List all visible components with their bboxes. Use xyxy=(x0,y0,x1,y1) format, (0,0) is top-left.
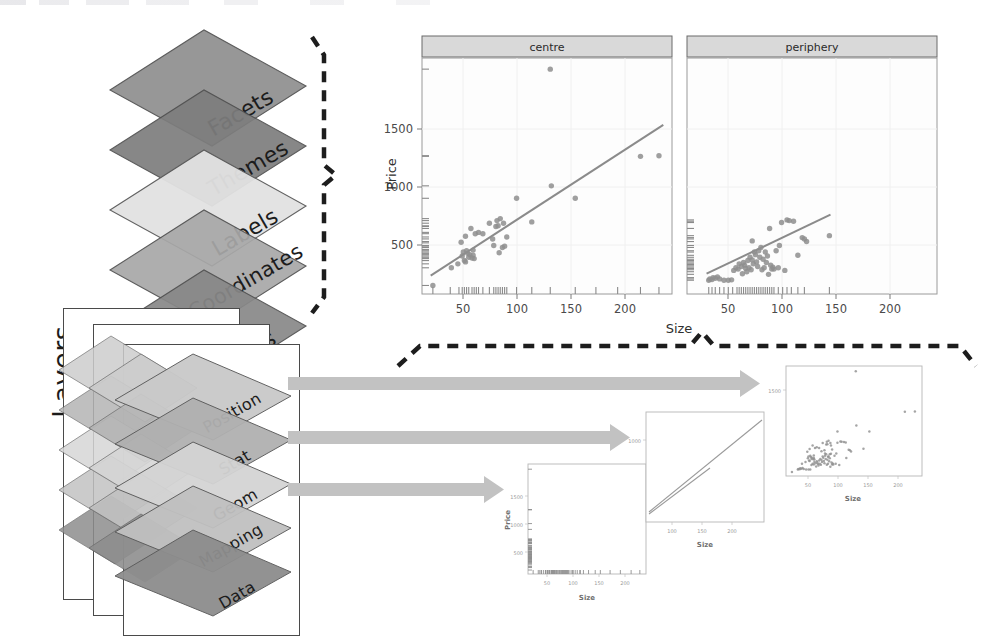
mini-geom-xtick-200: 200 xyxy=(893,482,903,488)
mini-geom-xtick-50: 50 xyxy=(805,482,811,488)
xtick-c-200: 200 xyxy=(614,302,636,316)
xtick-p-50: 50 xyxy=(721,302,736,316)
mini-plot-stat: 1000 100 150 200 Size xyxy=(612,406,772,556)
xtick-p-100: 100 xyxy=(771,302,793,316)
xtick-c-150: 150 xyxy=(560,302,582,316)
layers-group: Layers Position xyxy=(55,300,315,625)
mini-data-xtick-100: 100 xyxy=(568,580,578,586)
mini-data-ytick-500: 500 xyxy=(513,550,523,556)
xtick-c-50: 50 xyxy=(456,302,471,316)
sheet-data: Data xyxy=(113,528,293,622)
mini-geom-xtick-150: 150 xyxy=(863,482,873,488)
arrow-to-stat xyxy=(288,424,630,451)
mini-data-xtick-150: 150 xyxy=(594,580,604,586)
mini-geom-xtick-100: 100 xyxy=(833,482,843,488)
mini-stat-xlabel: Size xyxy=(697,541,714,549)
mini-stat-xtick-150: 150 xyxy=(697,528,707,534)
mini-geom-ytick-1500: 1500 xyxy=(768,388,781,394)
mini-plot-geom: 1500 50 100 150 200 Size xyxy=(752,360,932,510)
xtick-p-150: 150 xyxy=(825,302,847,316)
mini-data-xtick-200: 200 xyxy=(620,580,630,586)
y-axis-title: Price xyxy=(384,158,399,190)
mini-data-ytick-1500: 1500 xyxy=(510,494,523,500)
mini-data-ytick-1000: 1000 xyxy=(510,522,523,528)
facet-strip-periphery: periphery xyxy=(785,41,839,54)
mini-data-xtick-50: 50 xyxy=(544,580,550,586)
mini-stat-xtick-200: 200 xyxy=(727,528,737,534)
front-layer-sheets: Position Stat Geom Mapping Data xyxy=(113,352,303,632)
mini-data-ylabel: Price xyxy=(504,510,512,530)
arrow-to-geom xyxy=(288,370,760,397)
main-faceted-plot: centre 500 1000 1500 Price 50 100 150 20… xyxy=(384,26,982,338)
facet-strip-centre: centre xyxy=(529,41,564,54)
ytick-500: 500 xyxy=(391,238,413,252)
mini-stat-xtick-100: 100 xyxy=(667,528,677,534)
mini-data-xlabel: Size xyxy=(579,594,596,602)
scan-artifact xyxy=(0,0,430,5)
mini-geom-xlabel: Size xyxy=(845,495,862,503)
brace-vertical xyxy=(290,25,350,320)
mini-stat-ytick-1000: 1000 xyxy=(628,438,641,444)
arrow-to-data xyxy=(288,476,504,503)
xtick-p-200: 200 xyxy=(879,302,901,316)
x-axis-title: Size xyxy=(666,321,693,336)
xtick-c-100: 100 xyxy=(506,302,528,316)
ytick-1500: 1500 xyxy=(384,122,413,136)
